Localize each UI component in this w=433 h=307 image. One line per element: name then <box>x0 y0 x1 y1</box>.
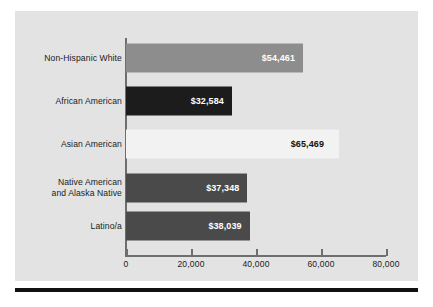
x-tick-label: 80,000 <box>372 259 399 269</box>
x-tick-label: 0 <box>124 259 129 269</box>
chart-panel: 020,00040,00060,00080,000 $54,461$32,584… <box>15 11 418 281</box>
bar-value-label: $37,348 <box>206 183 239 193</box>
x-tick <box>256 249 258 256</box>
bar-value-label: $54,461 <box>262 53 295 63</box>
x-tick <box>386 249 388 256</box>
category-label: Native American and Alaska Native <box>52 177 123 199</box>
figure: 020,00040,00060,00080,000 $54,461$32,584… <box>0 0 433 307</box>
bar-value-label: $38,039 <box>208 221 241 231</box>
category-label: African American <box>55 96 122 107</box>
category-label: Latino/a <box>91 221 122 232</box>
bar-value-label: $65,469 <box>291 139 324 149</box>
plot-area: 020,00040,00060,00080,000 $54,461$32,584… <box>15 11 418 281</box>
x-tick <box>321 249 323 256</box>
x-tick-label: 20,000 <box>177 259 204 269</box>
x-tick <box>126 249 128 256</box>
bottom-rule <box>15 288 418 292</box>
category-label: Asian American <box>61 139 122 150</box>
x-tick <box>191 249 193 256</box>
category-label: Non-Hispanic White <box>44 53 122 64</box>
x-tick-label: 60,000 <box>307 259 334 269</box>
bar-value-label: $32,584 <box>191 96 224 106</box>
x-tick-label: 40,000 <box>242 259 269 269</box>
